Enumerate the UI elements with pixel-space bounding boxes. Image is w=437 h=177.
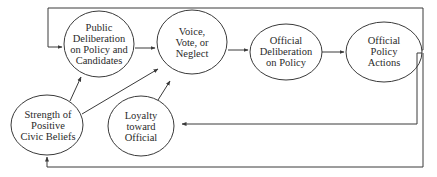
label-loyalty: Loyalty toward Official — [125, 110, 158, 143]
edge-civic-to-public — [70, 77, 81, 101]
label-voice-vote-neglect: Voice, Vote, or Neglect — [175, 26, 208, 59]
label-civic-beliefs: Strength of Positive Civic Beliefs — [20, 109, 75, 142]
label-official-policy-actions: Official Policy Actions — [368, 35, 401, 68]
flow-diagram — [0, 0, 437, 177]
edge-civic-to-voice — [82, 69, 158, 114]
label-public-deliberation: Public Deliberation on Policy and Candid… — [70, 22, 128, 66]
edge-feedback-civic — [47, 53, 423, 167]
label-official-deliberation: Official Deliberation on Policy — [260, 35, 312, 68]
edge-loyalty-to-voice — [158, 81, 170, 100]
